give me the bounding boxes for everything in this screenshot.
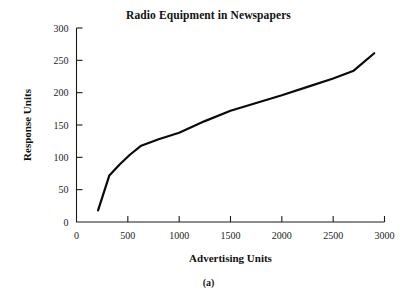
y-tick-label: 50 (59, 184, 69, 195)
x-tick-label: 3000 (375, 230, 395, 241)
y-tick-label: 250 (54, 55, 69, 66)
x-tick-label: 2500 (323, 230, 343, 241)
axis-frame (77, 28, 385, 222)
y-tick-label: 200 (54, 87, 69, 98)
figure-caption: (a) (0, 277, 417, 288)
x-tick-label: 2000 (272, 230, 292, 241)
y-tick-label: 150 (54, 120, 69, 131)
y-tick-label: 0 (64, 217, 69, 228)
line-chart-plot: 0501001502002503000500100015002000250030… (0, 0, 417, 302)
x-axis-title: Advertising Units (189, 252, 273, 264)
x-tick-label: 1000 (169, 230, 189, 241)
x-tick-label: 1500 (221, 230, 241, 241)
data-series-line (98, 53, 374, 210)
y-tick-label: 100 (54, 152, 69, 163)
x-tick-label: 0 (74, 230, 79, 241)
y-tick-label: 300 (54, 23, 69, 34)
y-axis-title: Response Units (21, 88, 33, 161)
figure-panel: Radio Equipment in Newspapers 0501001502… (0, 0, 417, 302)
x-tick-label: 500 (120, 230, 135, 241)
